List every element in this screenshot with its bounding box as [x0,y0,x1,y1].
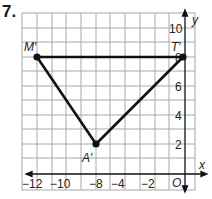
y-axis-down-arrow-icon [183,186,188,192]
x-tick-label: −12 [22,177,43,191]
axes [26,10,207,192]
x-tick-label: −4 [111,177,125,191]
point-a-label: A′ [81,151,93,165]
y-tick-label: 10 [169,22,183,36]
x-tick-label: −2 [141,177,155,191]
point-t [179,53,186,60]
x-tick-label: −10 [50,177,71,191]
y-tick-label: 6 [175,80,182,94]
point-t-label: T′ [171,40,181,54]
grid [22,13,195,190]
point-a [92,140,99,147]
coordinate-graph: y x O −12 −10 −8 −4 −2 10 8 6 4 2 M′ T′ … [0,0,212,199]
origin-label: O [172,176,181,190]
x-tick-labels: −12 −10 −8 −4 −2 [22,177,155,191]
x-axis-right-arrow-icon [201,172,207,177]
y-tick-label: 2 [175,138,182,152]
y-tick-label: 4 [175,109,182,123]
x-tick-label: −8 [89,177,103,191]
x-axis-label: x [198,158,206,172]
point-m-label: M′ [24,40,37,54]
point-m [33,53,40,60]
y-axis-label: y [191,13,199,27]
y-axis-up-arrow-icon [183,10,188,16]
x-axis-left-arrow-icon [26,172,32,177]
